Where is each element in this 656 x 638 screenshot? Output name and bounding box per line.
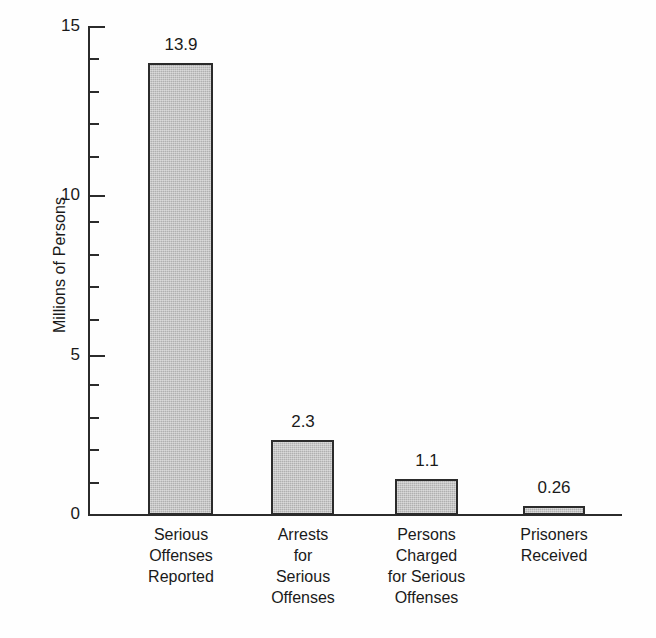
bar-chart: Millions of Persons 15 10 5 0 13.9 2.3 1… (0, 0, 656, 638)
x-category-label-2: Arrests for Serious Offenses (243, 524, 363, 608)
x-category-line: Prisoners (490, 524, 618, 545)
y-tick-8 (90, 254, 99, 256)
y-tick-label-15: 15 (38, 16, 80, 36)
y-tick-1 (90, 482, 99, 484)
y-tick-9 (90, 221, 99, 223)
x-category-label-3: Persons Charged for Serious Offenses (362, 524, 491, 608)
y-tick-2 (90, 449, 99, 451)
y-tick-label-10: 10 (38, 185, 80, 205)
x-category-line: Offenses (243, 587, 363, 608)
bar-value-label-4: 0.26 (503, 478, 605, 498)
x-category-label-1: Serious Offenses Reported (120, 524, 242, 587)
y-tick-12 (90, 123, 99, 125)
x-category-label-4: Prisoners Received (490, 524, 618, 566)
x-category-line: Reported (120, 566, 242, 587)
x-category-line: Received (490, 545, 618, 566)
bar-value-label-3: 1.1 (376, 451, 478, 471)
x-category-line: Arrests (243, 524, 363, 545)
y-tick-3 (90, 417, 99, 419)
y-tick-14 (90, 58, 99, 60)
y-tick-5 (90, 355, 105, 357)
x-category-line: Serious (243, 566, 363, 587)
bar-arrests-for-serious-offenses (271, 440, 334, 515)
x-category-line: for Serious (362, 566, 491, 587)
y-tick-label-5: 5 (38, 345, 80, 365)
y-tick-7 (90, 286, 99, 288)
x-category-line: Offenses (362, 587, 491, 608)
bar-value-label-1: 13.9 (130, 35, 232, 55)
bar-value-label-2: 2.3 (252, 412, 354, 432)
x-category-line: Charged (362, 545, 491, 566)
y-tick-11 (90, 156, 99, 158)
y-tick-label-0: 0 (38, 504, 80, 524)
x-category-line: for (243, 545, 363, 566)
bar-serious-offenses-reported (148, 63, 213, 515)
y-tick-6 (90, 319, 99, 321)
y-axis-line (88, 26, 90, 516)
bar-prisoners-received (523, 506, 585, 515)
y-tick-10 (90, 195, 105, 197)
x-category-line: Offenses (120, 545, 242, 566)
y-tick-13 (90, 91, 99, 93)
x-category-line: Serious (120, 524, 242, 545)
y-tick-15 (90, 26, 105, 28)
bar-persons-charged-for-serious-offenses (395, 479, 458, 515)
x-category-line: Persons (362, 524, 491, 545)
y-tick-4 (90, 384, 99, 386)
